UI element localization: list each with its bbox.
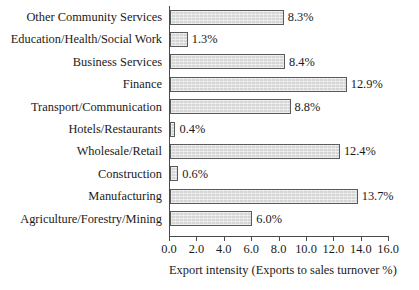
category-label: Finance [0,73,166,95]
x-axis-tick [388,236,389,241]
category-label: Agriculture/Forestry/Mining [0,208,166,230]
bar-value-label: 8.3% [288,11,314,23]
category-label: Business Services [0,51,166,73]
category-label: Manufacturing [0,185,166,207]
bar-value-label: 12.4% [344,145,376,157]
x-axis-tick-label: 4.0 [216,242,232,256]
x-axis-tick-label: 16.0 [377,242,399,256]
x-axis-tick [169,236,170,241]
category-label: Transport/Communication [0,96,166,118]
x-axis-tick-label: 6.0 [243,242,259,256]
x-axis-tick [196,236,197,241]
x-axis-tick [251,236,252,241]
x-axis-tick [279,236,280,241]
bar [170,211,252,226]
category-label: Construction [0,163,166,185]
bar-row: 13.7% [170,185,419,207]
category-label: Other Community Services [0,6,166,28]
bar-value-label: 0.6% [182,168,208,180]
bar-row: 8.4% [170,51,419,73]
x-axis-tick [333,236,334,241]
bar-chart: Other Community ServicesEducation/Health… [0,0,419,290]
x-axis-tick-label: 12.0 [323,242,345,256]
bar-row: 8.3% [170,6,419,28]
x-axis-tick [224,236,225,241]
category-label: Education/Health/Social Work [0,28,166,50]
bar-value-label: 0.4% [179,123,205,135]
bar-row: 0.6% [170,163,419,185]
category-label: Hotels/Restaurants [0,118,166,140]
bar [170,10,284,25]
x-axis-tick-label: 2.0 [189,242,205,256]
x-axis-tick-label: 14.0 [350,242,372,256]
bar [170,99,291,114]
x-axis-tick-labels: 0.02.04.06.08.010.012.014.016.0 [169,242,389,258]
bar-value-label: 13.7% [362,190,394,202]
bar [170,122,175,137]
bar-row: 6.0% [170,208,419,230]
bar-value-label: 6.0% [256,213,282,225]
bar-row: 8.8% [170,96,419,118]
plot-area: 8.3%1.3%8.4%12.9%8.8%0.4%12.4%0.6%13.7%6… [169,6,419,236]
bar-row: 1.3% [170,28,419,50]
bar-row: 12.4% [170,140,419,162]
x-axis-title: Export intensity (Exports to sales turno… [169,262,419,278]
bar-value-label: 8.4% [289,56,315,68]
bar-rows: 8.3%1.3%8.4%12.9%8.8%0.4%12.4%0.6%13.7%6… [170,6,419,230]
x-axis-tick [306,236,307,241]
x-axis-tick-label: 10.0 [295,242,317,256]
bar [170,54,285,69]
bar-value-label: 12.9% [351,78,383,90]
bar [170,144,340,159]
bar [170,166,178,181]
category-axis-labels: Other Community ServicesEducation/Health… [0,6,166,230]
bar-row: 12.9% [170,73,419,95]
category-label: Wholesale/Retail [0,140,166,162]
bar-row: 0.4% [170,118,419,140]
bar [170,32,188,47]
x-axis-tick-label: 8.0 [271,242,287,256]
bar [170,189,358,204]
bar-value-label: 8.8% [295,101,321,113]
bar-value-label: 1.3% [192,33,218,45]
x-axis-tick-label: 0.0 [161,242,177,256]
x-axis-tick [361,236,362,241]
bar [170,77,347,92]
